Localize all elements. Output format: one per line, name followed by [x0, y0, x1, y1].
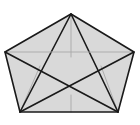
pentagon-figure — [0, 0, 140, 125]
